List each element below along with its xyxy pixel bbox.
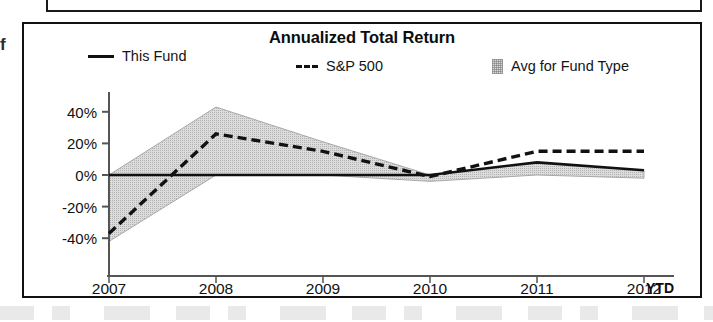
- y-tick-label-0: 40%: [35, 103, 97, 120]
- y-tick-label-4: -40%: [35, 230, 97, 247]
- x-tick-label-2008: 2008: [199, 280, 233, 298]
- chart-plot-svg: [24, 24, 704, 300]
- adjacent-panel-partial: [46, 0, 702, 12]
- x-tick-label-2011: 2011: [520, 280, 553, 298]
- y-tick-label-2: 0%: [35, 167, 97, 184]
- margin-glyph: f: [0, 36, 6, 53]
- y-tick-label-3: -20%: [35, 198, 97, 215]
- x-tick-label-2007: 2007: [92, 280, 126, 298]
- x-axis-ytd-label: YTD: [646, 280, 674, 296]
- annualized-total-return-chart-panel: Annualized Total Return This Fund S&P 50…: [22, 22, 702, 298]
- y-tick-label-1: 20%: [35, 135, 97, 152]
- x-tick-label-2009: 2009: [306, 280, 340, 298]
- scan-artifact-text: [0, 306, 713, 320]
- x-tick-label-2010: 2010: [413, 280, 447, 298]
- plot-area: [24, 24, 700, 296]
